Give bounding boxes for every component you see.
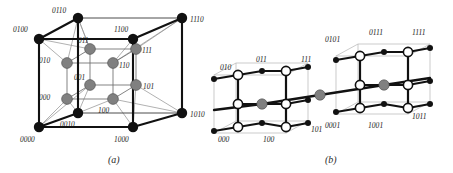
node-001 [85, 80, 96, 91]
label-011: 011 [78, 36, 89, 45]
hypercube-figure-svg: 0100 0110 1100 1110 0000 0010 1000 1010 … [0, 0, 453, 173]
node-b-0101 [355, 51, 364, 60]
panel-a-outer-front-edges [39, 18, 182, 127]
node-b-left-mid [233, 99, 242, 108]
panel-b-right-labels: 0101 0111 1111 0001 1001 1011 [325, 28, 427, 130]
panel-a-outer-nodes [34, 13, 187, 132]
node-111 [131, 44, 142, 55]
label-b-0101: 0101 [325, 35, 340, 44]
label-b-1001: 1001 [368, 121, 383, 130]
panel-b: 010 011 111 000 100 101 0101 0111 1111 0… [211, 28, 433, 166]
node-1000 [128, 122, 138, 132]
label-101: 101 [143, 82, 154, 91]
node-0110 [73, 13, 83, 23]
node-011 [85, 44, 96, 55]
label-b-100: 100 [263, 135, 275, 144]
node-0000 [34, 122, 44, 132]
label-0110: 0110 [52, 6, 67, 15]
dot-left-7 [305, 97, 311, 103]
dot-right-2 [381, 49, 387, 55]
label-b-010: 010 [220, 63, 232, 72]
caption-a: (a) [108, 154, 120, 166]
figure-container: 0100 0110 1100 1110 0000 0010 1000 1010 … [0, 0, 453, 173]
dot-right-6 [427, 101, 433, 107]
node-101 [131, 80, 142, 91]
node-b-0001 [355, 103, 364, 112]
label-b-0111: 0111 [369, 28, 383, 37]
node-b-101 [281, 99, 290, 108]
node-110 [108, 58, 119, 69]
node-1110 [177, 13, 187, 23]
dot-right-4 [333, 109, 339, 115]
label-001: 001 [74, 73, 85, 82]
label-b-111: 111 [301, 55, 311, 64]
dot-right-5 [381, 101, 387, 107]
node-b-1011 [403, 80, 412, 89]
label-010: 010 [39, 56, 50, 65]
panel-a-cross-edges [39, 18, 182, 127]
dot-left-4 [211, 128, 217, 134]
label-b-1011: 1011 [412, 112, 427, 121]
dot-left-1 [211, 76, 217, 82]
node-b-0111 [403, 47, 412, 56]
dot-right-1 [333, 57, 339, 63]
label-b-011: 011 [256, 55, 267, 64]
dot-left-5 [259, 120, 265, 126]
label-1010: 1010 [190, 110, 205, 119]
label-111: 111 [142, 46, 152, 55]
node-b-gray-mid [315, 90, 325, 100]
node-b-100 [281, 122, 290, 131]
node-100 [108, 94, 119, 105]
node-b-010 [233, 70, 242, 79]
label-0010: 0010 [60, 120, 75, 129]
dot-right-7 [427, 78, 433, 84]
label-b-0001: 0001 [325, 121, 340, 130]
node-b-gray-right [379, 80, 389, 90]
label-1100: 1100 [114, 25, 129, 34]
node-0100 [34, 34, 44, 44]
node-010 [62, 58, 73, 69]
node-1100 [128, 34, 138, 44]
label-1110: 1110 [190, 15, 204, 24]
node-b-011 [281, 66, 290, 75]
dot-left-3 [305, 64, 311, 70]
node-1010 [177, 108, 187, 118]
node-000 [62, 94, 73, 105]
dot-right-3 [427, 45, 433, 51]
node-b-gray-left [257, 99, 267, 109]
node-b-000 [233, 122, 242, 131]
label-b-101: 101 [311, 125, 322, 134]
label-b-000: 000 [218, 135, 230, 144]
label-100: 100 [98, 106, 109, 115]
label-110: 110 [119, 61, 130, 70]
label-000: 000 [39, 93, 50, 102]
label-0000: 0000 [20, 135, 35, 144]
label-1000: 1000 [114, 135, 129, 144]
caption-b: (b) [325, 154, 337, 166]
label-0100: 0100 [13, 25, 28, 34]
dot-left-2 [259, 68, 265, 74]
label-b-1111: 1111 [412, 28, 426, 37]
panel-a: 0100 0110 1100 1110 0000 0010 1000 1010 … [13, 6, 205, 166]
node-0010 [73, 108, 83, 118]
node-b-right-mid [355, 80, 364, 89]
